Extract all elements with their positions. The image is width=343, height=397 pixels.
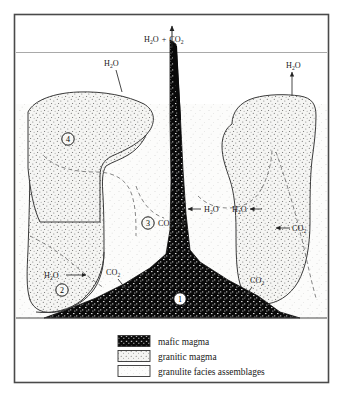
legend-label-granitic: granitic magma xyxy=(158,352,217,362)
marker-2: 2 xyxy=(56,284,68,296)
legend-label-granulite: granulite facies assemblages xyxy=(158,367,265,377)
figure-container: H2O+CO2 H2O H2O H2O CO2 xyxy=(0,0,343,397)
legend-label-mafic: mafic magma xyxy=(158,337,210,347)
marker-4: 4 xyxy=(62,133,74,145)
marker-1: 1 xyxy=(174,293,186,305)
legend-item-granulite: granulite facies assemblages xyxy=(118,366,265,377)
legend-swatch-granulite xyxy=(118,366,150,377)
marker-label: 2 xyxy=(60,286,64,295)
cross-section-panel: H2O+CO2 H2O H2O H2O CO2 xyxy=(16,16,327,337)
marker-label: 3 xyxy=(146,219,150,228)
marker-label: 4 xyxy=(66,135,70,144)
legend-item-granitic: granitic magma xyxy=(118,351,217,362)
lower-white-region xyxy=(16,320,327,337)
marker-3: 3 xyxy=(142,217,154,229)
legend-swatch-mafic xyxy=(118,336,150,347)
marker-label: 1 xyxy=(178,295,182,304)
geologic-cross-section-diagram: H2O+CO2 H2O H2O H2O CO2 xyxy=(0,0,343,397)
legend-swatch-granitic xyxy=(118,351,150,362)
legend-item-mafic: mafic magma xyxy=(118,336,210,347)
